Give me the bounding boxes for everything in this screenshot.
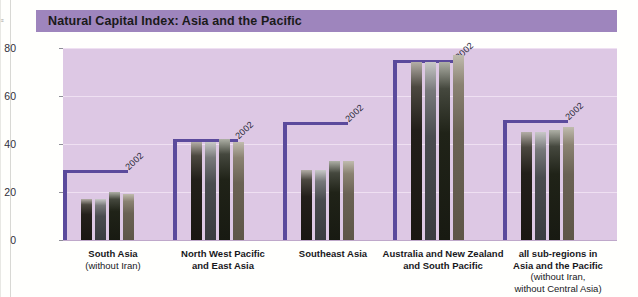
bar-group-all-sub-regions: 2002 bbox=[503, 48, 603, 240]
bar-4-south-asia bbox=[123, 194, 134, 240]
bar-2-southeast-asia bbox=[315, 170, 326, 240]
x-label-north-west-pacific-line2: and East Asia bbox=[153, 260, 293, 272]
x-label-all-sub-regions: all sub-regions in Asia and the Pacific … bbox=[483, 248, 633, 294]
chart-title-bar: Natural Capital Index: Asia and the Paci… bbox=[36, 10, 617, 32]
marker-2002-north-west-pacific bbox=[173, 139, 187, 240]
y-tick-label-0: 0 bbox=[0, 234, 16, 246]
y-tick-label-40: 40 bbox=[0, 138, 16, 150]
marker-label-southeast-asia: 2002 bbox=[343, 102, 365, 124]
y-tick-mark-40 bbox=[59, 144, 63, 145]
bar-1-southeast-asia bbox=[301, 170, 312, 240]
marker-tail-south-asia bbox=[77, 170, 128, 173]
x-label-all-sub-regions-line4: without Central Asia) bbox=[483, 283, 633, 295]
bar-1-south-asia bbox=[81, 199, 92, 240]
bar-group-southeast-asia: 2002 bbox=[283, 48, 383, 240]
bar-3-south-asia bbox=[109, 192, 120, 240]
marker-label-all-sub-regions: 2002 bbox=[563, 100, 585, 122]
bar-group-south-asia: 2002 bbox=[63, 48, 163, 240]
marker-2002-australia-new-zealand bbox=[393, 60, 407, 240]
bar-1-north-west-pacific bbox=[191, 142, 202, 240]
marker-label-north-west-pacific: 2002 bbox=[233, 119, 255, 141]
bar-4-north-west-pacific bbox=[233, 142, 244, 240]
y-tick-label-20: 20 bbox=[0, 186, 16, 198]
marker-tail-southeast-asia bbox=[297, 122, 348, 125]
x-label-all-sub-regions-line1: all sub-regions in bbox=[483, 248, 633, 260]
marker-2002-south-asia bbox=[63, 170, 77, 240]
chart-title: Natural Capital Index: Asia and the Paci… bbox=[48, 14, 302, 28]
bar-2-australia-new-zealand bbox=[425, 62, 436, 240]
x-axis-baseline bbox=[63, 240, 617, 241]
marker-2002-all-sub-regions bbox=[503, 120, 517, 240]
bar-1-australia-new-zealand bbox=[411, 62, 422, 240]
y-tick-label-80: 80 bbox=[0, 42, 16, 54]
bar-3-australia-new-zealand bbox=[439, 62, 450, 240]
bar-4-all-sub-regions bbox=[563, 127, 574, 240]
bar-3-north-west-pacific bbox=[219, 139, 230, 240]
bar-2-all-sub-regions bbox=[535, 132, 546, 240]
bar-1-all-sub-regions bbox=[521, 132, 532, 240]
bar-2-north-west-pacific bbox=[205, 142, 216, 240]
plot-area: 2002 2002 2002 bbox=[63, 48, 617, 240]
bar-3-all-sub-regions bbox=[549, 130, 560, 240]
chart-figure: Natural Capital Index: Asia and the Paci… bbox=[0, 0, 638, 297]
bar-group-north-west-pacific: 2002 bbox=[173, 48, 273, 240]
y-tick-mark-60 bbox=[59, 96, 63, 97]
y-tick-mark-80 bbox=[59, 48, 63, 49]
marker-label-south-asia: 2002 bbox=[123, 150, 145, 172]
bar-3-southeast-asia bbox=[329, 161, 340, 240]
bar-2-south-asia bbox=[95, 199, 106, 240]
bar-4-australia-new-zealand bbox=[453, 55, 464, 240]
y-tick-mark-0 bbox=[59, 240, 63, 241]
y-tick-label-60: 60 bbox=[0, 90, 16, 102]
y-tick-mark-20 bbox=[59, 192, 63, 193]
bar-group-australia-new-zealand: 2002 bbox=[393, 48, 493, 240]
bar-4-southeast-asia bbox=[343, 161, 354, 240]
marker-2002-southeast-asia bbox=[283, 122, 297, 240]
marker-tail-all-sub-regions bbox=[517, 120, 568, 123]
x-label-all-sub-regions-line3: (without Iran, bbox=[483, 271, 633, 283]
x-label-all-sub-regions-line2: Asia and the Pacific bbox=[483, 260, 633, 272]
